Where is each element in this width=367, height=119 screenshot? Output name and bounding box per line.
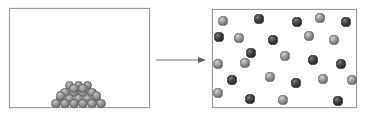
particle-sphere	[218, 16, 227, 25]
particle-sphere	[308, 55, 317, 64]
arrow-right-icon	[156, 53, 206, 67]
solid-state-container	[9, 8, 150, 108]
particle-sphere	[292, 17, 301, 26]
particle-sphere	[78, 99, 87, 108]
arrow-head	[198, 57, 206, 63]
particle-sphere	[56, 91, 65, 100]
particle-sphere	[234, 33, 243, 42]
particle-sphere	[318, 74, 327, 83]
particle-sphere	[278, 95, 287, 104]
particle-sphere	[92, 91, 101, 100]
particle-sphere	[213, 59, 222, 68]
particle-sphere	[336, 59, 345, 68]
particle-sphere	[78, 84, 87, 93]
particle-sphere	[268, 35, 277, 44]
particle-sphere	[214, 32, 223, 41]
particle-sphere	[280, 51, 289, 60]
particle-sphere	[227, 75, 236, 84]
particle-sphere	[245, 94, 254, 103]
particle-sphere	[341, 17, 350, 26]
particle-sphere	[69, 99, 78, 108]
particle-sphere	[304, 31, 313, 40]
phase-change-figure	[0, 0, 367, 119]
particle-sphere	[347, 75, 356, 84]
particle-sphere	[246, 48, 255, 57]
particle-sphere	[240, 58, 249, 67]
gas-state-container	[212, 9, 357, 108]
particle-sphere	[69, 84, 78, 93]
particle-sphere	[333, 96, 342, 105]
particle-sphere	[329, 35, 338, 44]
transition-arrow-icon	[156, 53, 206, 67]
particle-sphere	[315, 13, 324, 22]
particle-sphere	[213, 88, 222, 97]
particle-sphere	[291, 78, 300, 87]
particle-sphere	[265, 72, 274, 81]
particle-sphere	[254, 14, 263, 23]
